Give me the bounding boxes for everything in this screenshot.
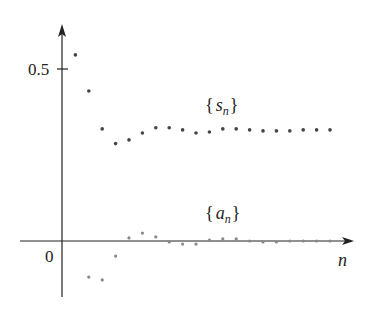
data-point <box>261 240 264 243</box>
svg-text:{an}: {an} <box>205 203 240 226</box>
data-point <box>181 243 184 246</box>
sequence-plot: 0.5 0 n {sn} {an} <box>0 0 369 311</box>
series-label-s: {sn} <box>205 95 238 118</box>
data-point <box>141 232 144 235</box>
data-point <box>87 276 90 279</box>
data-point <box>194 131 198 135</box>
data-point <box>74 53 78 57</box>
data-point <box>208 130 212 134</box>
data-point <box>101 278 104 281</box>
data-point <box>302 239 305 242</box>
data-point <box>288 239 291 242</box>
x-axis-label: n <box>338 250 347 270</box>
svg-text:{sn}: {sn} <box>205 95 238 118</box>
data-point <box>208 238 211 241</box>
data-point <box>235 237 238 240</box>
data-point <box>328 239 331 242</box>
data-point <box>127 236 130 239</box>
data-point <box>288 129 292 133</box>
data-point <box>194 243 197 246</box>
data-point <box>154 235 157 238</box>
data-point <box>181 128 185 132</box>
data-point <box>248 128 252 132</box>
data-point <box>221 237 224 240</box>
data-point <box>168 240 171 243</box>
data-point <box>275 240 278 243</box>
data-point <box>221 127 225 131</box>
data-point <box>141 131 145 135</box>
data-point <box>301 128 305 132</box>
data-point <box>154 126 158 130</box>
data-point <box>315 239 318 242</box>
data-point <box>114 142 118 146</box>
data-point <box>127 138 131 142</box>
data-point <box>114 255 117 258</box>
origin-label: 0 <box>45 247 54 266</box>
data-point <box>328 128 332 132</box>
data-point <box>248 239 251 242</box>
data-point <box>167 126 171 130</box>
series-s-points <box>74 53 332 145</box>
data-point <box>100 127 104 131</box>
series-label-a: {an} <box>205 203 240 226</box>
data-point <box>234 127 238 131</box>
data-point <box>275 129 279 133</box>
data-point <box>87 89 91 93</box>
y-tick-label-0.5: 0.5 <box>28 60 49 79</box>
data-point <box>315 128 319 132</box>
data-point <box>261 129 265 133</box>
series-a-points <box>87 232 331 282</box>
